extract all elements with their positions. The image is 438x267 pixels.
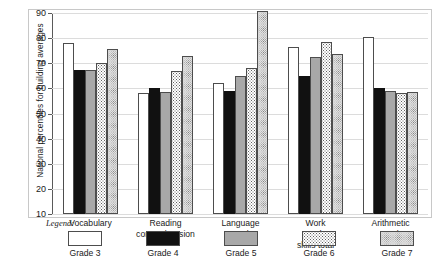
bar xyxy=(63,43,74,214)
plot-area: 102030405060708090 VocabularyReading com… xyxy=(52,13,428,214)
bar xyxy=(96,63,107,214)
bar xyxy=(160,92,171,214)
bar-group: Language total xyxy=(203,13,278,214)
legend-label: Grade 6 xyxy=(280,248,358,258)
bar xyxy=(374,88,385,214)
legend-item: Grade 5 xyxy=(202,231,280,258)
legend-items: Grade 3Grade 4Grade 5Grade 6Grade 7 xyxy=(46,231,436,258)
bar-chart-figure: National percentiles for building averag… xyxy=(0,0,438,267)
y-tick-mark-90 xyxy=(48,13,52,14)
bar-group: Reading comprehension xyxy=(128,13,203,214)
legend-item: Grade 3 xyxy=(46,231,124,258)
y-tick-mark-70 xyxy=(48,63,52,64)
bar xyxy=(74,70,85,214)
legend-swatch xyxy=(68,231,102,246)
bar xyxy=(299,76,310,214)
legend-swatch xyxy=(302,231,336,246)
legend-label: Grade 5 xyxy=(202,248,280,258)
bar-group: Arithmetic total xyxy=(353,13,428,214)
legend-label: Grade 4 xyxy=(124,248,202,258)
y-tick-label-30: 30 xyxy=(36,159,46,169)
bar xyxy=(288,47,299,214)
bar xyxy=(257,11,268,215)
bar xyxy=(213,83,224,214)
y-tick-mark-50 xyxy=(48,114,52,115)
bar-groups: VocabularyReading comprehensionLanguage … xyxy=(53,13,428,214)
y-tick-label-10: 10 xyxy=(36,209,46,219)
bar xyxy=(246,68,257,214)
bar xyxy=(385,91,396,214)
bars xyxy=(353,13,428,214)
bar xyxy=(138,93,149,214)
bar xyxy=(85,70,96,214)
legend-title: Legend: xyxy=(46,218,74,228)
bars xyxy=(128,13,203,214)
bar-group: Work study skills total xyxy=(278,13,353,214)
bar xyxy=(310,57,321,214)
y-tick-label-80: 80 xyxy=(36,33,46,43)
legend-item: Grade 7 xyxy=(358,231,436,258)
y-tick-label-40: 40 xyxy=(36,134,46,144)
y-tick-mark-80 xyxy=(48,38,52,39)
y-axis-label: National percentiles for building averag… xyxy=(36,1,45,201)
bar xyxy=(235,76,246,214)
bar xyxy=(182,56,193,214)
bar xyxy=(332,54,343,214)
y-tick-label-50: 50 xyxy=(36,109,46,119)
y-tick-label-90: 90 xyxy=(36,8,46,18)
legend-swatch xyxy=(224,231,258,246)
legend-label: Grade 3 xyxy=(46,248,124,258)
y-tick-label-20: 20 xyxy=(36,184,46,194)
gridline-10 xyxy=(52,214,428,215)
bar-group: Vocabulary xyxy=(53,13,128,214)
bar xyxy=(363,37,374,214)
bars xyxy=(278,13,353,214)
y-tick-mark-10 xyxy=(48,214,52,215)
bar xyxy=(407,92,418,214)
bar xyxy=(321,42,332,214)
bar xyxy=(171,71,182,214)
bars xyxy=(203,13,278,214)
legend-label: Grade 7 xyxy=(358,248,436,258)
y-tick-label-60: 60 xyxy=(36,83,46,93)
legend-swatch xyxy=(380,231,414,246)
y-tick-mark-20 xyxy=(48,189,52,190)
legend-swatch xyxy=(146,231,180,246)
bars xyxy=(53,13,128,214)
legend-item: Grade 4 xyxy=(124,231,202,258)
legend-item: Grade 6 xyxy=(280,231,358,258)
y-tick-label-70: 70 xyxy=(36,58,46,68)
bar xyxy=(107,49,118,214)
y-tick-mark-60 xyxy=(48,88,52,89)
bar xyxy=(224,91,235,214)
category-label: Vocabulary xyxy=(69,218,112,229)
bar xyxy=(396,93,407,214)
y-tick-mark-30 xyxy=(48,164,52,165)
y-tick-mark-40 xyxy=(48,139,52,140)
bar xyxy=(149,88,160,214)
